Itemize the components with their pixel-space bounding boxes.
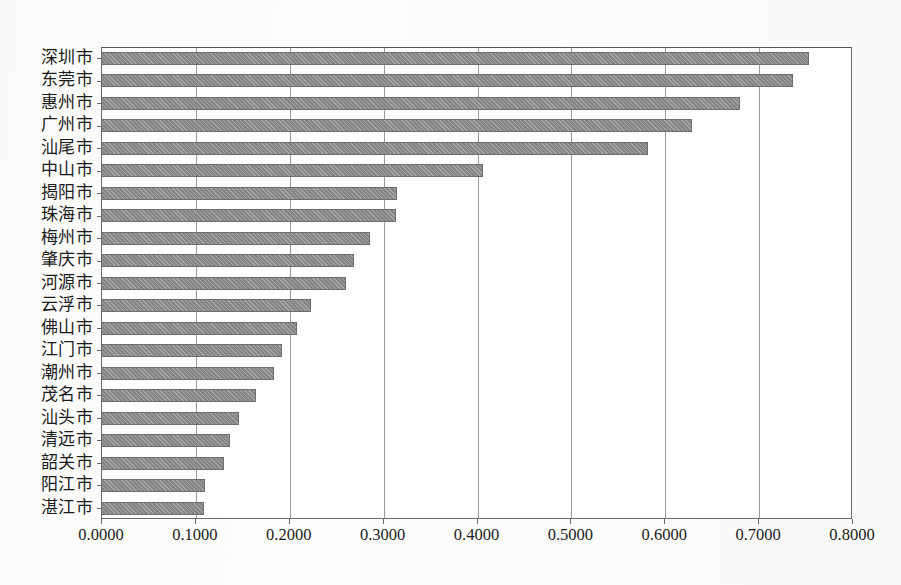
bar-row <box>102 430 851 452</box>
y-axis-tick-label: 茂名市 <box>0 384 93 406</box>
bar-row <box>102 93 851 115</box>
plot-area <box>101 47 852 519</box>
y-axis-tick-label: 河源市 <box>0 272 93 294</box>
bar[interactable] <box>102 119 692 132</box>
chart-container: 深圳市东莞市惠州市广州市汕尾市中山市揭阳市珠海市梅州市肇庆市河源市云浮市佛山市江… <box>0 0 901 585</box>
bar-row <box>102 160 851 182</box>
bar[interactable] <box>102 412 239 425</box>
y-axis-tick-label: 阳江市 <box>0 474 93 496</box>
y-axis-tick-label: 湛江市 <box>0 497 93 519</box>
bar[interactable] <box>102 97 740 110</box>
x-axis-tick-label: 0.6000 <box>642 525 687 545</box>
x-axis-tick-label: 0.2000 <box>266 525 311 545</box>
bar-row <box>102 273 851 295</box>
y-axis-tick-label: 梅州市 <box>0 227 93 249</box>
y-axis-tick-label: 珠海市 <box>0 204 93 226</box>
bar[interactable] <box>102 389 256 402</box>
bar[interactable] <box>102 187 397 200</box>
bar-row <box>102 385 851 407</box>
x-axis-tick-label: 0.4000 <box>454 525 499 545</box>
y-axis-tick-label: 深圳市 <box>0 47 93 69</box>
bar[interactable] <box>102 367 274 380</box>
x-axis-tick <box>570 519 571 524</box>
bar[interactable] <box>102 164 483 177</box>
bar[interactable] <box>102 322 297 335</box>
bar-row <box>102 498 851 520</box>
y-axis-tick-label: 东莞市 <box>0 69 93 91</box>
bar[interactable] <box>102 502 204 515</box>
bar[interactable] <box>102 52 809 65</box>
x-axis-tick <box>758 519 759 524</box>
bar-series <box>102 48 851 518</box>
bar-row <box>102 115 851 137</box>
bar[interactable] <box>102 232 370 245</box>
bar-row <box>102 340 851 362</box>
bar-row <box>102 48 851 70</box>
x-axis-tick-label: 0.3000 <box>360 525 405 545</box>
bar[interactable] <box>102 299 311 312</box>
bar-row <box>102 295 851 317</box>
x-axis-tick <box>101 519 102 524</box>
y-axis-tick-label: 汕尾市 <box>0 137 93 159</box>
y-axis-tick-label: 揭阳市 <box>0 182 93 204</box>
y-axis-tick-label: 广州市 <box>0 114 93 136</box>
bar[interactable] <box>102 74 793 87</box>
x-axis-tick <box>664 519 665 524</box>
bar-row <box>102 228 851 250</box>
bar-row <box>102 138 851 160</box>
bar[interactable] <box>102 434 230 447</box>
bar-row <box>102 453 851 475</box>
y-axis-tick-label: 潮州市 <box>0 362 93 384</box>
bar[interactable] <box>102 254 354 267</box>
x-axis-tick <box>383 519 384 524</box>
y-axis-tick-label: 清远市 <box>0 429 93 451</box>
bar-row <box>102 408 851 430</box>
bar-row <box>102 183 851 205</box>
bar-row <box>102 475 851 497</box>
x-axis-tick-label: 0.1000 <box>172 525 217 545</box>
bar[interactable] <box>102 277 346 290</box>
x-axis-tick <box>852 519 853 524</box>
y-axis-tick-label: 佛山市 <box>0 317 93 339</box>
bar[interactable] <box>102 209 396 222</box>
x-axis-tick-label: 0.5000 <box>548 525 593 545</box>
x-axis-tick-label: 0.8000 <box>829 525 874 545</box>
y-axis-tick-label: 韶关市 <box>0 452 93 474</box>
bar-row <box>102 205 851 227</box>
bar[interactable] <box>102 142 648 155</box>
y-axis-tick-label: 惠州市 <box>0 92 93 114</box>
x-axis-tick-label: 0.7000 <box>735 525 780 545</box>
bar-row <box>102 363 851 385</box>
x-axis-tick <box>289 519 290 524</box>
y-axis-labels: 深圳市东莞市惠州市广州市汕尾市中山市揭阳市珠海市梅州市肇庆市河源市云浮市佛山市江… <box>0 47 97 519</box>
y-axis-tick-label: 汕头市 <box>0 407 93 429</box>
bar[interactable] <box>102 344 282 357</box>
x-axis-tick <box>477 519 478 524</box>
x-axis-tick-label: 0.0000 <box>78 525 123 545</box>
y-axis-tick-label: 江门市 <box>0 339 93 361</box>
bar-row <box>102 70 851 92</box>
y-axis-tick-label: 中山市 <box>0 159 93 181</box>
x-axis-labels: 0.00000.10000.20000.30000.40000.50000.60… <box>0 525 901 555</box>
y-axis-tick-label: 肇庆市 <box>0 249 93 271</box>
x-axis-tick <box>195 519 196 524</box>
bar[interactable] <box>102 479 205 492</box>
y-axis-tick-label: 云浮市 <box>0 294 93 316</box>
bar-row <box>102 318 851 340</box>
bar[interactable] <box>102 457 224 470</box>
bar-row <box>102 250 851 272</box>
